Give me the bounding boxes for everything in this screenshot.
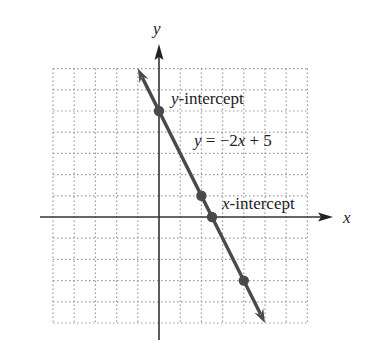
y-intercept-label: y-intercept — [171, 90, 244, 107]
coordinate-plane — [0, 0, 367, 350]
data-point — [239, 275, 249, 285]
x-intercept-var: x — [222, 194, 230, 213]
y-intercept-text: -intercept — [179, 89, 244, 108]
data-point — [207, 212, 217, 222]
equation-mid: = −2 — [202, 131, 238, 150]
data-point — [196, 191, 206, 201]
data-point — [154, 106, 164, 116]
x-axis-label: x — [343, 209, 351, 226]
x-intercept-text: -intercept — [230, 194, 295, 213]
x-intercept-label: x-intercept — [222, 195, 295, 212]
y-intercept-var: y — [171, 89, 179, 108]
y-axis-label: y — [153, 20, 161, 37]
equation-end: + 5 — [245, 131, 272, 150]
equation-label: y = −2x + 5 — [194, 132, 272, 149]
equation-y: y — [194, 131, 202, 150]
